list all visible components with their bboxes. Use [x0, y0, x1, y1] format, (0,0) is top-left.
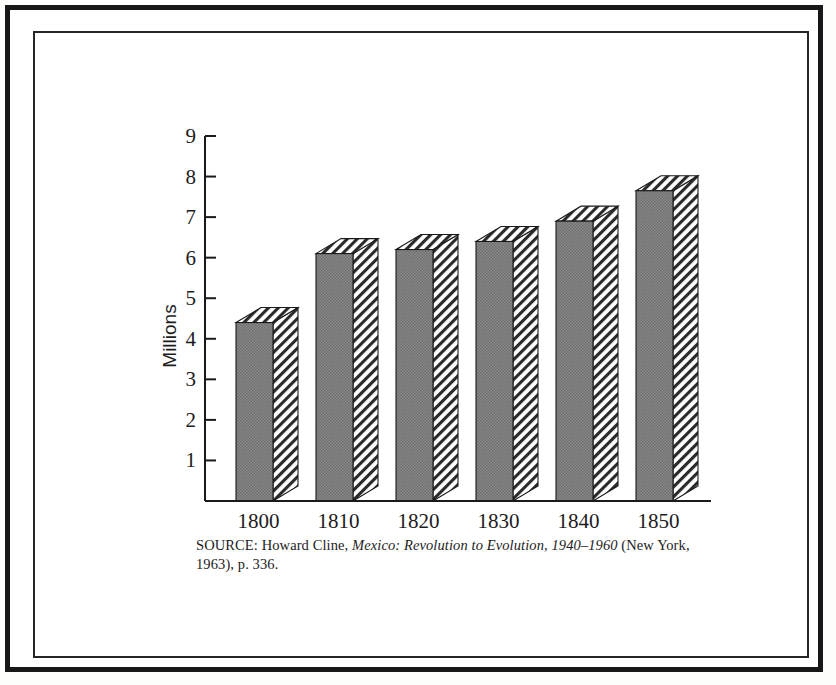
y-tick-label: 4	[186, 327, 197, 351]
y-tick-label: 5	[186, 286, 197, 310]
y-tick-label: 9	[186, 124, 197, 148]
chart-area: 123456789180018101820183018401850 Millio…	[0, 0, 836, 685]
bar-front-face	[316, 254, 353, 501]
bar-front-face	[556, 221, 593, 501]
bar-1810	[316, 239, 378, 501]
x-tick-label-1830: 1830	[478, 509, 520, 533]
bar-side-face	[433, 235, 458, 501]
y-tick-label: 3	[186, 367, 197, 391]
y-tick-label: 1	[186, 448, 197, 472]
bar-side-face	[513, 226, 538, 501]
bar-1850	[636, 176, 698, 501]
y-tick-label: 8	[186, 165, 197, 189]
bar-side-face	[673, 176, 698, 501]
bars-group	[236, 176, 698, 501]
bar-front-face	[636, 191, 673, 501]
bar-side-face	[593, 206, 618, 501]
x-tick-label-1850: 1850	[638, 509, 680, 533]
bar-1800	[236, 308, 298, 501]
y-axis-title-text: Millions	[159, 304, 180, 367]
y-axis-title: Millions	[159, 304, 180, 367]
bar-1820	[396, 235, 458, 501]
x-tick-label-1800: 1800	[238, 509, 280, 533]
bar-side-face	[273, 308, 298, 501]
figure-root: 123456789180018101820183018401850 Millio…	[0, 0, 836, 685]
source-note: SOURCE: Howard Cline, Mexico: Revolution…	[196, 536, 696, 574]
bar-1840	[556, 206, 618, 501]
x-tick-label-1840: 1840	[558, 509, 600, 533]
bar-front-face	[396, 250, 433, 501]
source-title: Mexico: Revolution to Evolution, 1940–19…	[352, 537, 618, 553]
y-tick-label: 2	[186, 408, 197, 432]
bar-front-face	[236, 323, 273, 501]
y-tick-label: 7	[186, 205, 197, 229]
bar-front-face	[476, 241, 513, 501]
bar-chart-svg: 123456789180018101820183018401850 Millio…	[0, 0, 836, 685]
x-tick-label-1820: 1820	[398, 509, 440, 533]
y-tick-label: 6	[186, 246, 197, 270]
x-tick-label-1810: 1810	[318, 509, 360, 533]
source-prefix: SOURCE: Howard Cline,	[196, 537, 352, 553]
bar-side-face	[353, 239, 378, 501]
bar-1830	[476, 226, 538, 501]
